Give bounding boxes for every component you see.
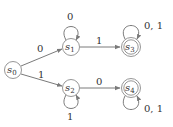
- state-s4-accepting: s4: [122, 79, 141, 98]
- label-s0-s2: 1: [38, 69, 44, 80]
- label-loop-s4: 0, 1: [144, 103, 163, 114]
- loop-s3: [123, 26, 138, 40]
- label-loop-s2: 1: [67, 111, 73, 122]
- label-loop-s3: 0, 1: [144, 20, 163, 31]
- fsa-diagram: 0 1 0 1 1 0 0, 1 0, 1 s0 s1 s2 s3 s4: [0, 0, 173, 127]
- label-s2-s4: 0: [96, 76, 102, 87]
- loop-s4: [123, 96, 138, 110]
- state-s3-accepting: s3: [122, 38, 141, 57]
- label-loop-s1: 0: [67, 11, 73, 22]
- loop-s2: [64, 95, 78, 109]
- loop-s1: [64, 27, 78, 41]
- state-s2: s2: [63, 80, 80, 97]
- label-s0-s1: 0: [37, 43, 43, 54]
- state-s1: s1: [63, 39, 80, 56]
- label-s1-s3: 1: [96, 35, 102, 46]
- state-s0: s0: [5, 62, 22, 79]
